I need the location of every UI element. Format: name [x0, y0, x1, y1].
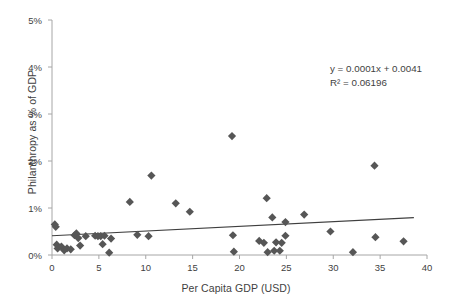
data-point [147, 171, 155, 179]
x-axis-tick-label: 35 [365, 262, 395, 273]
data-point [281, 232, 289, 240]
data-point [99, 240, 107, 248]
data-point [278, 239, 286, 247]
data-point [186, 208, 194, 216]
x-axis-tick-label: 5 [84, 262, 114, 273]
x-axis-tick-label: 20 [225, 262, 255, 273]
data-point [228, 132, 236, 140]
data-point [144, 232, 152, 240]
trendline-r-squared: R² = 0.06196 [330, 76, 422, 90]
trendline-annotation: y = 0.0001x + 0.0041 R² = 0.06196 [330, 62, 422, 89]
data-point [300, 210, 308, 218]
x-axis-tick-label: 30 [318, 262, 348, 273]
x-axis-tick-label: 40 [412, 262, 442, 273]
x-axis-tick-label: 25 [271, 262, 301, 273]
data-point [326, 227, 334, 235]
x-axis-tick-label: 0 [37, 262, 67, 273]
data-point [82, 232, 90, 240]
data-point [281, 218, 289, 226]
data-point [105, 249, 113, 257]
trendline-equation: y = 0.0001x + 0.0041 [330, 62, 422, 76]
data-point [263, 194, 271, 202]
x-axis-tick-label: 15 [178, 262, 208, 273]
data-point [229, 231, 237, 239]
scatter-chart: Philanthropy as % of GDP 0%1%2%3%4%5% Pe… [0, 0, 456, 304]
data-point [172, 199, 180, 207]
data-point [276, 247, 284, 255]
data-point [268, 213, 276, 221]
data-point [76, 242, 84, 250]
data-point [371, 233, 379, 241]
data-point [399, 237, 407, 245]
x-axis-tick-label: 10 [131, 262, 161, 273]
data-point [370, 162, 378, 170]
data-point [126, 198, 134, 206]
plot-area [0, 0, 456, 304]
x-axis-title: Per Capita GDP (USD) [52, 282, 420, 294]
